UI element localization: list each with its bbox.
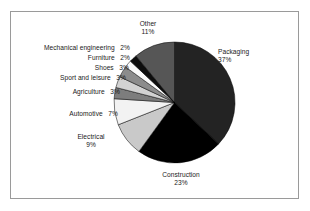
- pie-label-construction: Construction 23%: [142, 171, 220, 187]
- pie-label-electrical-value: 9%: [62, 141, 120, 149]
- pie-label-shoes-name: Shoes: [95, 64, 118, 71]
- pie-label-construction-value: 23%: [142, 179, 220, 187]
- pie-label-electrical-name: Electrical: [62, 133, 120, 141]
- pie-label-shoes: Shoes 3%: [14, 64, 129, 72]
- pie-label-agriculture: Agriculture 3%: [14, 88, 120, 96]
- pie-label-mechanical-engineering-name: Mechanical engineering: [44, 44, 119, 51]
- pie-label-other-value: 11%: [118, 28, 178, 36]
- pie-label-automotive-name: Automotive: [69, 110, 106, 117]
- pie-label-furniture-name: Furniture: [88, 54, 119, 61]
- pie-label-mechanical-engineering-value: 2%: [120, 44, 130, 51]
- pie-label-automotive: Automotive 7%: [14, 110, 118, 118]
- pie-label-mechanical-engineering: Mechanical engineering 2%: [14, 44, 130, 52]
- pie-label-sport-and-leisure: Sport and leisure 3%: [14, 74, 126, 82]
- pie-label-electrical: Electrical 9%: [62, 133, 120, 149]
- pie-label-packaging-name: Packaging: [218, 48, 280, 56]
- pie-label-other-name: Other: [118, 20, 178, 28]
- pie-label-agriculture-value: 3%: [110, 88, 120, 95]
- pie-label-automotive-value: 7%: [108, 110, 118, 117]
- pie-slice-group: [114, 42, 235, 163]
- pie-label-furniture-value: 2%: [120, 54, 130, 61]
- pie-label-construction-name: Construction: [142, 171, 220, 179]
- pie-label-agriculture-name: Agriculture: [73, 88, 109, 95]
- pie-label-packaging-value: 37%: [218, 56, 280, 64]
- pie-label-furniture: Furniture 2%: [14, 54, 130, 62]
- pie-label-shoes-value: 3%: [119, 64, 129, 71]
- pie-label-other: Other 11%: [118, 20, 178, 36]
- pie-label-sport-and-leisure-name: Sport and leisure: [60, 74, 114, 81]
- pie-label-sport-and-leisure-value: 3%: [116, 74, 126, 81]
- screenshot-root: Other 11% Packaging 37% Construction 23%…: [0, 0, 310, 211]
- pie-label-packaging: Packaging 37%: [218, 48, 280, 64]
